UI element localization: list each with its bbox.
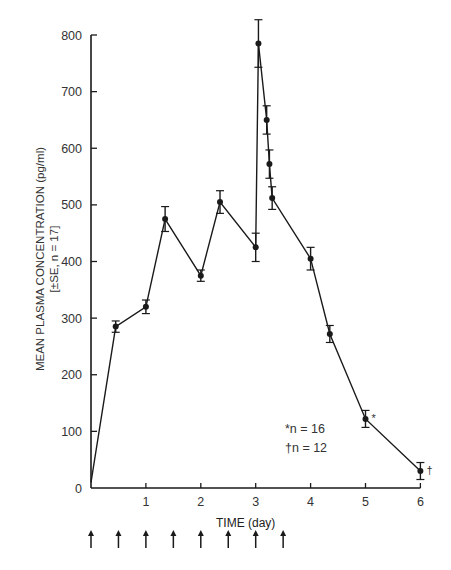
dose-arrow-icon xyxy=(280,530,286,536)
line-chart: 0100200300400500600700800123456*† xyxy=(0,0,451,570)
x-tick-label: 6 xyxy=(417,495,424,509)
dose-arrow-icon xyxy=(88,530,94,536)
data-point xyxy=(308,256,314,262)
y-axis-label: MEAN PLASMA CONCENTRATION (pg/ml) [±SE, … xyxy=(33,94,61,424)
data-point xyxy=(113,324,119,330)
data-point xyxy=(417,468,423,474)
point-footnote-marker: † xyxy=(426,464,432,476)
data-point xyxy=(143,304,149,310)
y-tick-label: 200 xyxy=(61,368,82,382)
data-point xyxy=(253,244,259,250)
annotation-n16: *n = 16 xyxy=(285,420,327,439)
dose-arrow-icon xyxy=(115,530,121,536)
dose-arrow-icon xyxy=(253,530,259,536)
x-tick-label: 3 xyxy=(252,495,259,509)
y-tick-label: 800 xyxy=(61,29,82,43)
y-axis-title: MEAN PLASMA CONCENTRATION (pg/ml) xyxy=(33,94,47,424)
x-tick-label: 4 xyxy=(307,495,314,509)
x-axis-label: TIME (day) xyxy=(216,516,275,530)
data-point xyxy=(217,199,223,205)
y-tick-label: 500 xyxy=(61,198,82,212)
dose-arrow-icon xyxy=(170,530,176,536)
y-axis-subtitle: [±SE, n = 17] xyxy=(47,94,61,424)
y-tick-label: 600 xyxy=(61,142,82,156)
annotation-n12: †n = 12 xyxy=(285,439,327,458)
data-point xyxy=(269,195,275,201)
y-tick-label: 700 xyxy=(61,85,82,99)
y-tick-label: 100 xyxy=(61,425,82,439)
data-point xyxy=(266,161,272,167)
y-tick-label: 300 xyxy=(61,312,82,326)
y-tick-label: 400 xyxy=(61,255,82,269)
dose-arrow-icon xyxy=(198,530,204,536)
dose-arrow-icon xyxy=(225,530,231,536)
data-point xyxy=(327,331,333,337)
x-tick-label: 5 xyxy=(362,495,369,509)
data-point xyxy=(198,273,204,279)
data-point xyxy=(264,117,270,123)
y-tick-label: 0 xyxy=(75,482,82,496)
annotation-legend: *n = 16 †n = 12 xyxy=(285,420,327,458)
data-point xyxy=(363,416,369,422)
data-point xyxy=(255,40,261,46)
x-tick-label: 2 xyxy=(197,495,204,509)
x-tick-label: 1 xyxy=(142,495,149,509)
point-footnote-marker: * xyxy=(372,412,377,424)
data-point xyxy=(162,216,168,222)
dose-arrow-icon xyxy=(143,530,149,536)
